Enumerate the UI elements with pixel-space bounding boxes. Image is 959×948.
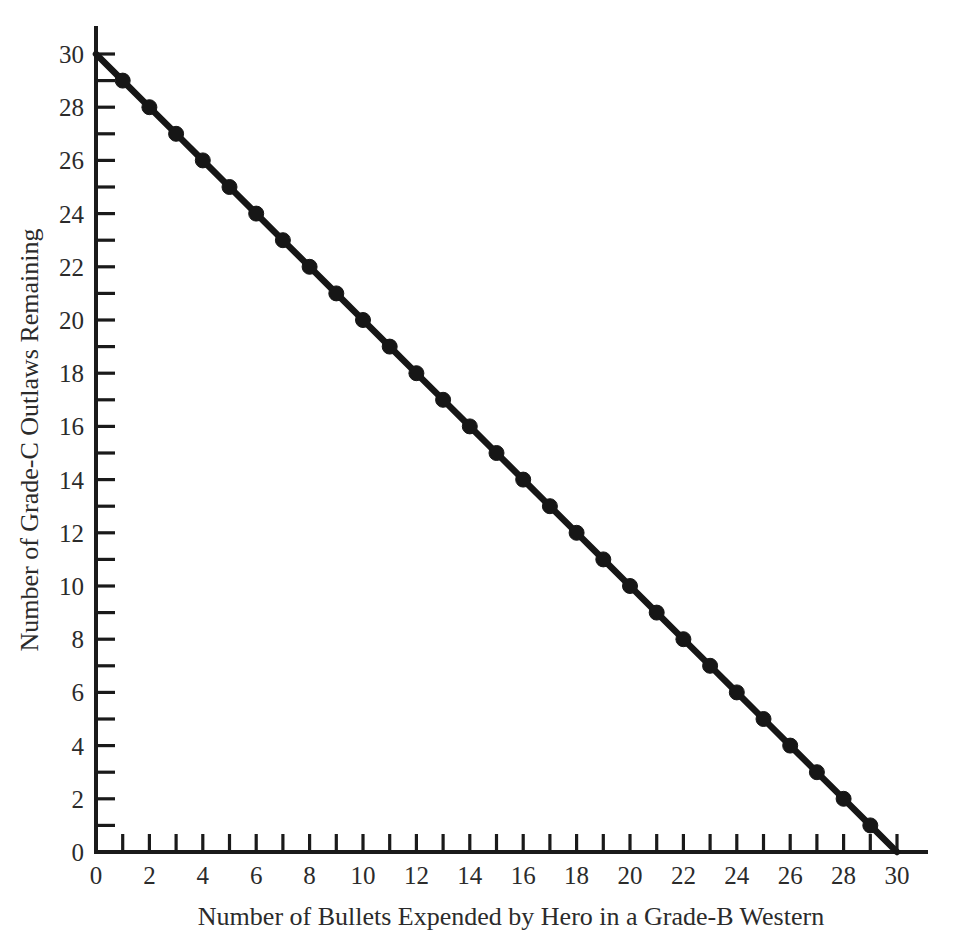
- x-axis-title: Number of Bullets Expended by Hero in a …: [198, 902, 824, 931]
- y-tick-label: 6: [72, 679, 85, 706]
- data-point: [596, 552, 611, 567]
- y-tick-label: 18: [59, 360, 84, 387]
- y-tick-label: 14: [59, 467, 85, 494]
- y-tick-label: 10: [59, 573, 84, 600]
- chart-figure: 024681012141618202224262830 024681012141…: [0, 0, 959, 948]
- x-tick-label: 14: [457, 862, 483, 889]
- x-tick-label: 24: [724, 862, 750, 889]
- data-point: [703, 658, 718, 673]
- x-tick-label: 6: [250, 862, 263, 889]
- data-point: [302, 259, 317, 274]
- x-tick-label: 18: [564, 862, 589, 889]
- x-tick-label: 22: [671, 862, 696, 889]
- data-point: [275, 233, 290, 248]
- x-tick-label: 0: [90, 862, 103, 889]
- x-axis-ticks: [123, 834, 897, 852]
- y-tick-label: 26: [59, 147, 84, 174]
- data-point: [783, 738, 798, 753]
- data-point: [542, 499, 557, 514]
- y-tick-label: 12: [59, 520, 84, 547]
- y-tick-label: 2: [72, 786, 85, 813]
- data-point: [836, 791, 851, 806]
- line-chart-plot: 024681012141618202224262830 024681012141…: [0, 0, 959, 948]
- x-tick-label: 8: [303, 862, 316, 889]
- y-tick-label: 8: [72, 626, 85, 653]
- data-point: [195, 153, 210, 168]
- series-markers-outlaws-remaining: [115, 73, 878, 833]
- axes-group: [96, 28, 926, 852]
- data-point: [249, 206, 264, 221]
- data-point: [516, 472, 531, 487]
- x-tick-label: 30: [885, 862, 910, 889]
- x-tick-label: 20: [618, 862, 643, 889]
- data-point: [489, 446, 504, 461]
- y-tick-label: 30: [59, 41, 84, 68]
- data-series-group: [96, 54, 897, 852]
- data-point: [462, 419, 477, 434]
- data-point: [222, 180, 237, 195]
- x-tick-label: 16: [511, 862, 536, 889]
- y-tick-label: 16: [59, 413, 84, 440]
- data-point: [623, 579, 638, 594]
- data-point: [115, 73, 130, 88]
- x-tick-label: 26: [778, 862, 803, 889]
- y-tick-label: 20: [59, 307, 84, 334]
- x-tick-label: 12: [404, 862, 429, 889]
- x-tick-label: 4: [197, 862, 210, 889]
- x-axis-tick-labels: 024681012141618202224262830: [90, 862, 910, 889]
- data-point: [756, 712, 771, 727]
- y-tick-label: 24: [59, 201, 85, 228]
- y-axis-tick-labels: 024681012141618202224262830: [59, 41, 85, 866]
- data-point: [409, 366, 424, 381]
- y-axis-title: Number of Grade-C Outlaws Remaining: [15, 228, 44, 651]
- data-point: [142, 100, 157, 115]
- data-point: [863, 818, 878, 833]
- y-axis-ticks: [96, 54, 115, 825]
- y-tick-label: 0: [72, 839, 85, 866]
- data-point: [569, 525, 584, 540]
- data-point: [356, 313, 371, 328]
- y-tick-label: 22: [59, 254, 84, 281]
- data-point: [809, 765, 824, 780]
- data-point: [649, 605, 664, 620]
- data-point: [676, 632, 691, 647]
- data-point: [382, 339, 397, 354]
- data-point: [329, 286, 344, 301]
- data-point: [436, 392, 451, 407]
- y-tick-label: 28: [59, 94, 84, 121]
- x-tick-label: 2: [143, 862, 156, 889]
- x-tick-label: 10: [351, 862, 376, 889]
- data-point: [169, 126, 184, 141]
- y-tick-label: 4: [72, 733, 85, 760]
- data-point: [729, 685, 744, 700]
- x-tick-label: 28: [831, 862, 856, 889]
